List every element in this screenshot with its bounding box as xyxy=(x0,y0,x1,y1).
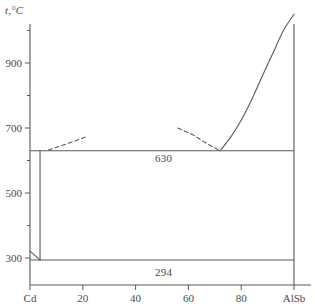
curve-liquidus-alsb-branch xyxy=(220,14,294,151)
x-axis-tick-label: 80 xyxy=(236,292,248,304)
x-axis-tick-label: 60 xyxy=(183,292,195,304)
annotation-eutectic-lower: 294 xyxy=(155,266,172,278)
y-axis-title: t,°C xyxy=(5,4,23,16)
x-axis-tick-label: 40 xyxy=(130,292,142,304)
y-axis-tick-label: 900 xyxy=(6,57,23,69)
curve-cd-melting-spur xyxy=(30,251,40,260)
x-axis-tick-label: 20 xyxy=(77,292,89,304)
y-axis-tick-label: 500 xyxy=(6,187,23,199)
y-axis-tick-label: 700 xyxy=(6,122,23,134)
curve-liquidus-left-extrapolated xyxy=(48,136,88,150)
annotation-eutectic-upper: 630 xyxy=(155,152,172,164)
curve-liquidus-right-extrapolated xyxy=(178,128,220,151)
phase-diagram-figure: 300500700900Cd20406080AlSb t,°C 630 294 xyxy=(0,0,315,307)
x-axis-tick-label: Cd xyxy=(24,292,37,304)
y-axis-tick-label: 300 xyxy=(6,252,23,264)
x-axis-tick-label: AlSb xyxy=(283,292,306,304)
